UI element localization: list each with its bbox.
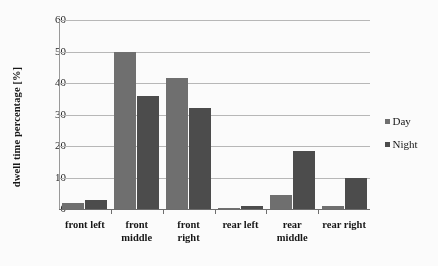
chart-legend: DayNight bbox=[385, 115, 437, 161]
y-axis-title: dwell time percentage [%] bbox=[11, 12, 29, 242]
bar-night bbox=[189, 108, 211, 209]
bar-day bbox=[270, 195, 292, 209]
bar-day bbox=[166, 78, 188, 209]
legend-label: Day bbox=[393, 115, 411, 127]
x-axis-line bbox=[59, 209, 370, 210]
bar-group bbox=[59, 20, 111, 209]
legend-label: Night bbox=[393, 138, 418, 150]
bar-chart: dwell time percentage [%] 0102030405060 … bbox=[0, 0, 438, 266]
bar-group bbox=[266, 20, 318, 209]
plot-area bbox=[59, 20, 370, 210]
bar-night bbox=[137, 96, 159, 209]
legend-swatch-icon bbox=[385, 119, 390, 124]
legend-item-night[interactable]: Night bbox=[385, 138, 437, 150]
legend-swatch-icon bbox=[385, 142, 390, 147]
bar-group bbox=[111, 20, 163, 209]
bar-group bbox=[163, 20, 215, 209]
bar-group bbox=[215, 20, 267, 209]
x-axis-category-label: rear right bbox=[309, 218, 379, 231]
bar-day bbox=[114, 52, 136, 210]
bar-night bbox=[293, 151, 315, 209]
legend-item-day[interactable]: Day bbox=[385, 115, 437, 127]
bar-group bbox=[318, 20, 370, 209]
bar-night bbox=[85, 200, 107, 209]
bar-night bbox=[345, 178, 367, 210]
